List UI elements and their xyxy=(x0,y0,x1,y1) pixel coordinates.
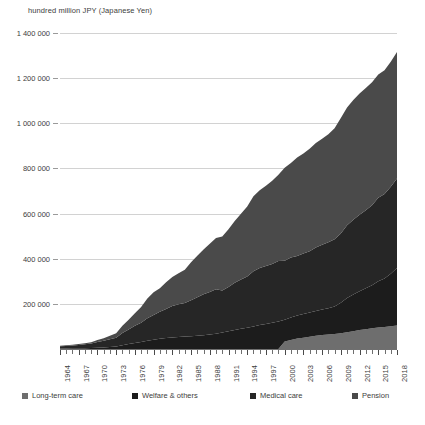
x-axis-tick-label: 1985 xyxy=(194,365,203,382)
x-axis-tick-label: 2015 xyxy=(381,365,390,382)
legend-item-long-term-care[interactable]: Long-term care xyxy=(22,391,83,400)
x-axis-tick xyxy=(172,350,173,355)
legend-label: Pension xyxy=(362,391,389,400)
x-axis-tick xyxy=(97,350,98,355)
y-axis-labels: 200 000400 000600 000800 0001 000 0001 2… xyxy=(0,33,58,349)
x-axis-tick-label: 2000 xyxy=(288,365,297,382)
x-axis-tick xyxy=(385,350,386,354)
x-axis-tick xyxy=(191,350,192,355)
x-axis-tick-label: 2009 xyxy=(344,365,353,382)
legend-swatch-icon xyxy=(352,393,358,399)
x-axis-tick xyxy=(116,350,117,355)
x-axis-tick-label: 1991 xyxy=(232,365,241,382)
x-axis-tick xyxy=(366,350,367,354)
y-axis-tick-label: 1 000 000 xyxy=(17,119,50,128)
x-axis-tick xyxy=(378,350,379,355)
plot-area xyxy=(60,33,397,349)
stacked-area-series xyxy=(60,33,397,349)
x-axis-tick xyxy=(147,350,148,354)
x-axis-tick-label: 1970 xyxy=(100,365,109,382)
y-axis-tick-label: 800 000 xyxy=(23,164,50,173)
x-axis-tick xyxy=(210,350,211,355)
x-axis-tick xyxy=(135,350,136,355)
x-axis-tick-label: 1994 xyxy=(250,365,259,382)
x-axis-ticks xyxy=(60,350,397,355)
y-axis-tick xyxy=(53,78,58,79)
x-axis-tick-label: 1982 xyxy=(175,365,184,382)
x-axis-tick xyxy=(179,350,180,354)
x-axis-tick-label: 1979 xyxy=(157,365,166,382)
x-axis-tick xyxy=(372,350,373,354)
x-axis-tick-label: 1967 xyxy=(82,365,91,382)
x-axis-tick xyxy=(160,350,161,354)
x-axis-tick xyxy=(272,350,273,354)
y-axis-tick xyxy=(53,259,58,260)
x-axis-tick xyxy=(297,350,298,354)
y-axis-tick-label: 600 000 xyxy=(23,209,50,218)
x-axis-tick-label: 1964 xyxy=(63,365,72,382)
x-axis-tick xyxy=(110,350,111,354)
x-axis-tick xyxy=(216,350,217,354)
y-axis-tick xyxy=(53,304,58,305)
x-axis-tick xyxy=(104,350,105,354)
y-axis-tick xyxy=(53,33,58,34)
legend-label: Long-term care xyxy=(32,391,83,400)
x-axis-tick xyxy=(91,350,92,354)
x-axis-tick-label: 2003 xyxy=(306,365,315,382)
x-axis-tick xyxy=(229,350,230,355)
legend-item-welfare-others[interactable]: Welfare & others xyxy=(132,391,198,400)
legend-swatch-icon xyxy=(132,393,138,399)
x-axis-tick xyxy=(235,350,236,354)
legend-item-medical-care[interactable]: Medical care xyxy=(250,391,303,400)
y-axis-tick-label: 1 400 000 xyxy=(17,29,50,38)
social-security-cost-area-chart: hundred million JPY (Japanese Yen) 200 0… xyxy=(0,0,425,425)
y-axis-tick-label: 200 000 xyxy=(23,299,50,308)
x-axis-tick xyxy=(222,350,223,354)
x-axis-tick-label: 2018 xyxy=(400,365,409,382)
x-axis-tick xyxy=(322,350,323,355)
x-axis-tick xyxy=(278,350,279,354)
y-axis-tick xyxy=(53,214,58,215)
x-axis-tick xyxy=(353,350,354,354)
x-axis-tick xyxy=(129,350,130,354)
y-axis-unit-title: hundred million JPY (Japanese Yen) xyxy=(28,6,152,15)
legend-item-pension[interactable]: Pension xyxy=(352,391,389,400)
x-axis-tick xyxy=(316,350,317,354)
x-axis-tick xyxy=(247,350,248,355)
x-axis-tick xyxy=(66,350,67,354)
x-axis-tick xyxy=(291,350,292,354)
y-axis-tick xyxy=(53,123,58,124)
x-axis-tick-label: 2012 xyxy=(363,365,372,382)
x-axis-tick xyxy=(335,350,336,354)
x-axis-tick xyxy=(85,350,86,354)
legend-swatch-icon xyxy=(22,393,28,399)
x-axis-tick xyxy=(360,350,361,355)
x-axis-tick-label: 1976 xyxy=(138,365,147,382)
x-axis-tick-label: 1997 xyxy=(269,365,278,382)
x-axis-tick xyxy=(310,350,311,354)
chart-legend: Long-term careWelfare & othersMedical ca… xyxy=(22,391,417,405)
x-axis-tick xyxy=(241,350,242,354)
x-axis-tick xyxy=(285,350,286,355)
x-axis-tick xyxy=(122,350,123,354)
y-axis-tick-label: 1 200 000 xyxy=(17,74,50,83)
x-axis-tick-label: 1973 xyxy=(119,365,128,382)
x-axis-tick xyxy=(266,350,267,355)
legend-label: Welfare & others xyxy=(142,391,198,400)
x-axis-tick-label: 2006 xyxy=(325,365,334,382)
x-axis-tick xyxy=(328,350,329,354)
x-axis-tick xyxy=(204,350,205,354)
x-axis-tick xyxy=(60,350,61,355)
x-axis-tick xyxy=(303,350,304,355)
x-axis-tick xyxy=(154,350,155,355)
x-axis-tick xyxy=(79,350,80,355)
x-axis-tick xyxy=(260,350,261,354)
x-axis-tick xyxy=(341,350,342,355)
x-axis-tick xyxy=(253,350,254,354)
x-axis-tick xyxy=(197,350,198,354)
x-axis-tick xyxy=(185,350,186,354)
x-axis-tick xyxy=(72,350,73,354)
x-axis-tick xyxy=(397,350,398,355)
x-axis-tick xyxy=(166,350,167,354)
y-axis-tick xyxy=(53,168,58,169)
